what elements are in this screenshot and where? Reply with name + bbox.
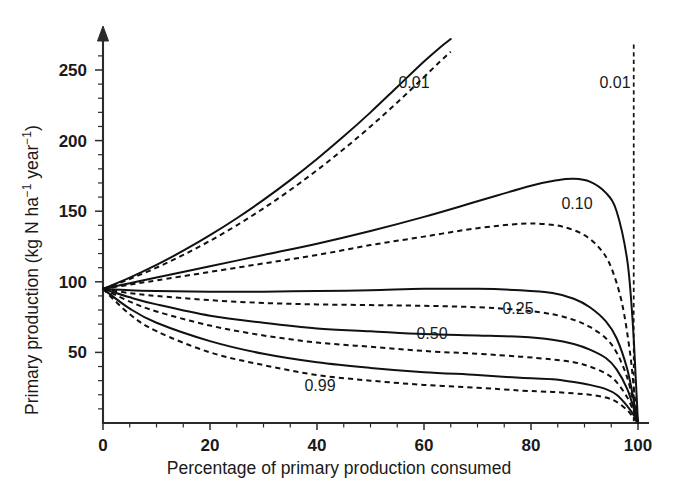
- y-axis-title-sup2: −1: [20, 131, 34, 145]
- curve-0-10-solid: [103, 179, 638, 423]
- x-axis-title: Percentage of primary production consume…: [0, 458, 678, 479]
- tick-labels-group: 02040608010050100150200250: [59, 61, 653, 455]
- curve-0-25-solid: [103, 289, 638, 423]
- curve-0-10-dashed: [103, 223, 638, 423]
- curve-label: 0.10: [561, 195, 592, 212]
- y-axis-title-mid: year: [22, 145, 42, 184]
- x-tick-label: 40: [308, 436, 327, 455]
- curve-0-50-dashed: [103, 289, 638, 423]
- curve-label: 0.99: [304, 377, 335, 394]
- curve-0-50-solid: [103, 289, 638, 423]
- y-axis-title-sup1: −1: [20, 184, 34, 198]
- plot-canvas: 0.010.010.100.250.500.99 020406080100501…: [0, 0, 678, 497]
- x-tick-label: 80: [522, 436, 541, 455]
- x-tick-label: 60: [415, 436, 434, 455]
- y-tick-label: 100: [59, 273, 87, 292]
- y-axis-title-lead: Primary production (kg N ha: [22, 197, 42, 415]
- chart-figure: 0.010.010.100.250.500.99 020406080100501…: [0, 0, 678, 497]
- y-axis-title-tail: ): [22, 125, 42, 131]
- y-tick-label: 50: [68, 343, 87, 362]
- curves-group: [103, 39, 638, 423]
- y-tick-label: 150: [59, 202, 87, 221]
- y-axis-title: Primary production (kg N ha−1 year−1): [22, 125, 43, 415]
- y-tick-label: 200: [59, 132, 87, 151]
- y-axis-arrow-icon: [98, 26, 109, 41]
- x-tick-label: 0: [98, 436, 107, 455]
- axes-group: [95, 26, 648, 430]
- curve-label: 0.50: [416, 325, 447, 342]
- curve-0-99-dashed: [103, 289, 638, 423]
- curve-label: 0.25: [502, 300, 533, 317]
- curve-0-99-solid: [103, 289, 638, 423]
- y-tick-label: 250: [59, 61, 87, 80]
- curve-label: 0.01: [599, 74, 630, 91]
- x-tick-label: 20: [201, 436, 220, 455]
- curve-label: 0.01: [398, 74, 429, 91]
- curve-0-25-dashed: [103, 289, 638, 423]
- x-tick-label: 100: [624, 436, 652, 455]
